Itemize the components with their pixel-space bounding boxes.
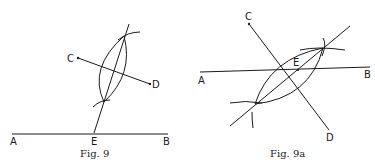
arc-left: [99, 36, 124, 102]
label-a: A: [10, 136, 17, 147]
label-b: B: [364, 69, 371, 80]
arc-tick-bottom: [252, 112, 253, 128]
figure-9: C D A E B Fig. 9: [10, 24, 170, 159]
caption-fig-9: Fig. 9: [80, 148, 109, 159]
label-b: B: [163, 136, 170, 147]
bisector-line: [230, 26, 350, 126]
arc-tick-right: [322, 38, 325, 56]
figure-9a: C D A E B Fig. 9a: [198, 11, 371, 159]
caption-fig-9a: Fig. 9a: [270, 148, 305, 159]
point-c: [77, 57, 79, 59]
label-d: D: [152, 79, 160, 90]
arc-tick-bottom: [93, 100, 110, 107]
label-c: C: [67, 53, 74, 64]
label-e: E: [91, 136, 97, 147]
point-e: [297, 69, 299, 71]
label-d: D: [326, 132, 334, 143]
label-e: E: [293, 57, 299, 68]
point-d: [149, 83, 151, 85]
point-c: [248, 23, 250, 25]
diagram-canvas: C D A E B Fig. 9 C D A E B Fig. 9a: [0, 0, 375, 165]
label-c: C: [245, 11, 252, 22]
label-a: A: [198, 75, 205, 86]
